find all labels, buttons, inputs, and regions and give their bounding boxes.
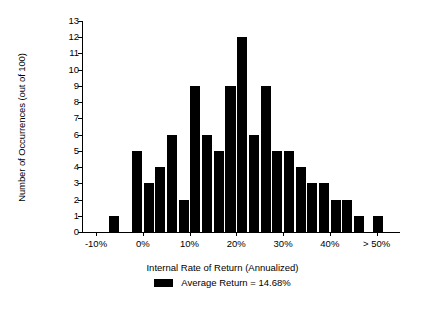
y-tick-label: 8 [57,97,79,107]
x-tick-mark [143,232,144,236]
bar [272,151,282,232]
bar-series [82,21,400,232]
bar [132,151,142,232]
x-axis-line [82,232,400,233]
bar [342,200,352,232]
x-tick-mark [377,232,378,236]
bar [155,167,165,232]
x-tick-label: 0% [136,239,150,249]
bar [202,135,212,232]
x-tick-label: 30% [274,239,293,249]
bar [144,183,154,232]
x-tick-mark [283,232,284,236]
bar [373,216,383,232]
bar [167,135,177,232]
histogram-chart: Number of Occurrences (out of 100) 01234… [0,0,445,310]
y-tick-label: 4 [57,162,79,172]
bar [331,200,341,232]
bar [307,183,317,232]
bar [214,151,224,232]
x-tick-mark [190,232,191,236]
bar [249,135,259,232]
x-tick-label: > 50% [363,239,390,249]
y-tick-label: 12 [57,32,79,42]
bar [179,200,189,232]
plot-area: 012345678910111213 -10%0%10%20%30%40%> 5… [82,21,400,232]
bar [319,183,329,232]
bar [190,86,200,232]
chart-legend: Average Return = 14.68% [0,277,445,288]
bar [354,216,364,232]
bar [261,86,271,232]
y-tick-label: 5 [57,146,79,156]
y-tick-label: 13 [57,16,79,26]
x-tick-label: -10% [85,239,107,249]
bar [237,37,247,232]
bar [225,86,235,232]
bar [296,167,306,232]
x-tick-label: 20% [227,239,246,249]
y-tick-label: 6 [57,130,79,140]
legend-swatch-icon [154,279,173,287]
x-axis-title: Internal Rate of Return (Annualized) [0,262,445,273]
y-tick-group: 0 [82,232,83,233]
x-tick-mark [236,232,237,236]
y-tick-label: 7 [57,114,79,124]
y-tick-label: 9 [57,81,79,91]
legend-label-average-return: Average Return = 14.68% [181,277,290,288]
x-tick-label: 10% [180,239,199,249]
y-tick-label: 1 [57,211,79,221]
y-tick-label: 0 [57,227,79,237]
x-tick-mark [330,232,331,236]
y-tick-label: 11 [57,49,79,59]
y-tick-label: 10 [57,65,79,75]
y-axis-title: Number of Occurrences (out of 100) [16,28,27,228]
y-tick-label: 2 [57,195,79,205]
y-tick-label: 3 [57,179,79,189]
bar [109,216,119,232]
x-tick-mark [96,232,97,236]
x-tick-label: 40% [320,239,339,249]
bar [284,151,294,232]
